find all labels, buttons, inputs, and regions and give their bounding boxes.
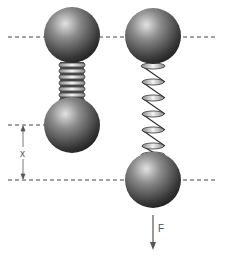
left-bottom-ball (44, 97, 100, 153)
force-arrow (150, 215, 156, 250)
right-bottom-ball (125, 152, 181, 208)
displacement-label: x (20, 148, 25, 159)
left-top-ball (44, 7, 100, 63)
force-label: F (158, 223, 164, 234)
right-top-ball (125, 8, 181, 64)
spring-diagram: x F (0, 0, 225, 258)
stretched-spring (141, 63, 165, 158)
